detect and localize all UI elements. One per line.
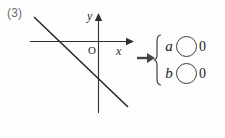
graph-svg: y x O <box>28 10 138 118</box>
problem-figure: (3) y x O <box>0 0 225 138</box>
inequality-row-a: a 0 <box>163 35 206 59</box>
inequality-system: a 0 b 0 <box>153 33 206 87</box>
system-brace-icon <box>153 34 162 86</box>
y-axis-label: y <box>86 10 93 23</box>
y-axis <box>95 13 102 113</box>
operator-blank-circle-a[interactable] <box>176 36 197 57</box>
problem-number-label: (3) <box>7 7 22 19</box>
operator-blank-circle-b[interactable] <box>176 63 197 84</box>
right-side-value-b: 0 <box>199 67 206 81</box>
x-axis-label: x <box>115 44 122 58</box>
inequality-row-b: b 0 <box>163 62 206 86</box>
origin-label: O <box>88 44 96 56</box>
coordinate-graph: y x O <box>28 10 138 118</box>
y-axis-arrowhead-icon <box>95 13 102 21</box>
system-rows: a 0 b 0 <box>163 35 206 86</box>
boundary-line <box>34 17 128 107</box>
coefficient-a: a <box>163 39 175 54</box>
x-axis-arrowhead-icon <box>126 38 134 45</box>
coefficient-b: b <box>163 66 175 81</box>
right-side-value-a: 0 <box>199 40 206 54</box>
